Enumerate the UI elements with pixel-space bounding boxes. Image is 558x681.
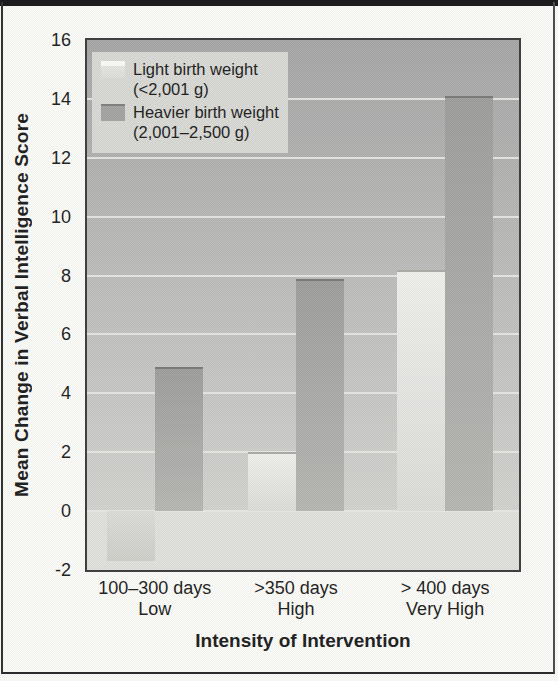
y-tick-label-16: 16 (51, 30, 71, 51)
x-category-label-1: >350 daysHigh (254, 578, 338, 620)
legend-label-heavy-line2: (2,001–2,500 g) (133, 122, 279, 142)
x-category-intensity: Low (98, 599, 211, 620)
y-tick-label-4: 4 (61, 383, 71, 404)
x-category-label-0: 100–300 daysLow (98, 578, 211, 620)
plot-area: Light birth weight (<2,001 g) Heavier bi… (85, 38, 521, 572)
y-tick-label-10: 10 (51, 206, 71, 227)
x-category-intensity: High (254, 599, 338, 620)
legend: Light birth weight (<2,001 g) Heavier bi… (92, 52, 288, 153)
legend-item-heavy: Heavier birth weight (2,001–2,500 g) (101, 102, 280, 142)
bar-light-2 (397, 270, 445, 511)
bar-light-1 (248, 452, 296, 511)
y-tick-label-2: 2 (61, 442, 71, 463)
bar-heavy-0 (155, 367, 203, 511)
legend-label-light: Light birth weight (<2,001 g) (133, 59, 258, 99)
legend-label-heavy-line1: Heavier birth weight (133, 102, 279, 122)
y-axis-tick-labels: 1614121086420-2 (0, 40, 78, 570)
x-category-days: > 400 days (401, 578, 490, 599)
x-category-intensity: Very High (401, 599, 490, 620)
legend-swatch-heavy-icon (101, 104, 125, 121)
bar-heavy-2 (445, 96, 493, 511)
bar-heavy-1 (296, 279, 344, 512)
legend-item-light: Light birth weight (<2,001 g) (101, 59, 280, 99)
y-tick-label-8: 8 (61, 265, 71, 286)
legend-swatch-light-icon (101, 61, 125, 78)
x-axis-title: Intensity of Intervention (87, 630, 519, 652)
bar-light-0 (107, 511, 155, 561)
x-category-days: >350 days (254, 578, 338, 599)
figure: Mean Change in Verbal Intelligence Score… (0, 0, 558, 681)
x-category-labels: 100–300 daysLow>350 daysHigh> 400 daysVe… (87, 578, 519, 624)
y-tick-label-6: 6 (61, 324, 71, 345)
legend-label-light-line2: (<2,001 g) (133, 79, 258, 99)
y-tick-label--2: -2 (55, 560, 71, 581)
bar-group-2 (397, 40, 493, 570)
legend-label-light-line1: Light birth weight (133, 59, 258, 79)
x-category-label-2: > 400 daysVery High (401, 578, 490, 620)
y-tick-label-14: 14 (51, 88, 71, 109)
y-tick-label-0: 0 (61, 501, 71, 522)
x-category-days: 100–300 days (98, 578, 211, 599)
legend-label-heavy: Heavier birth weight (2,001–2,500 g) (133, 102, 279, 142)
y-tick-label-12: 12 (51, 147, 71, 168)
